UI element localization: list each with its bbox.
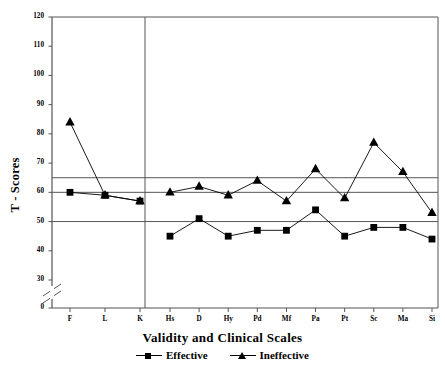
data-point (225, 233, 232, 240)
y-tick-label: 40 (18, 247, 44, 254)
data-point (65, 117, 74, 125)
x-tick-label: K (125, 316, 155, 323)
data-point (196, 215, 203, 222)
data-point (67, 189, 74, 196)
x-tick-label: Hy (213, 316, 243, 323)
chart-legend: Effective Ineffective (0, 350, 445, 361)
x-tick-label: Ma (388, 316, 418, 323)
data-point (312, 206, 319, 213)
data-point (253, 175, 262, 183)
x-tick-label: Si (417, 316, 445, 323)
data-point (370, 224, 377, 231)
x-tick-label: Sc (359, 316, 389, 323)
data-point (167, 233, 174, 240)
y-tick-label: 30 (18, 276, 44, 283)
square-marker-icon (136, 351, 162, 361)
y-tick-label: 70 (18, 159, 44, 166)
data-point (398, 167, 407, 175)
legend-label-ineffective: Ineffective (260, 350, 309, 361)
data-point (341, 233, 348, 240)
x-tick-label: Mf (271, 316, 301, 323)
legend-item-effective: Effective (136, 350, 208, 361)
y-tick-label: 60 (18, 188, 44, 195)
data-point (399, 224, 406, 231)
data-point (369, 137, 378, 145)
data-point (254, 227, 261, 234)
data-point (311, 164, 320, 172)
legend-label-effective: Effective (166, 350, 208, 361)
y-tick-label: 110 (18, 42, 44, 49)
y-tick-label: 50 (18, 218, 44, 225)
x-tick-label: L (90, 316, 120, 323)
triangle-marker-icon (230, 351, 256, 361)
y-tick-label: 80 (18, 130, 44, 137)
legend-item-ineffective: Ineffective (230, 350, 309, 361)
y-tick-label: 100 (18, 71, 44, 78)
data-point (429, 236, 436, 243)
y-tick-label: 120 (18, 13, 44, 20)
y-tick-label: 90 (18, 101, 44, 108)
x-tick-label: Pa (301, 316, 331, 323)
x-tick-label: Pt (330, 316, 360, 323)
data-point (283, 227, 290, 234)
chart-container: T - Scores 030405060708090100110120 FLKH… (0, 0, 445, 374)
y-tick-label: 0 (18, 304, 44, 311)
x-axis-title: Validity and Clinical Scales (0, 330, 445, 346)
x-tick-label: Pd (242, 316, 272, 323)
data-point (340, 193, 349, 201)
x-tick-label: D (184, 316, 214, 323)
x-tick-label: F (55, 316, 85, 323)
x-tick-label: Hs (155, 316, 185, 323)
data-point (194, 181, 203, 189)
